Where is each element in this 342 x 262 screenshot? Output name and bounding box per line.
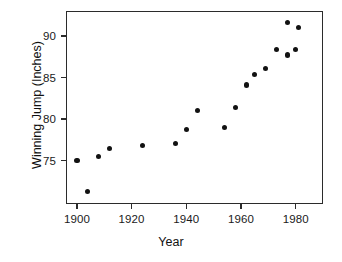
x-axis-ticklabel: 1920 bbox=[119, 213, 145, 225]
x-axis-tick bbox=[76, 204, 77, 209]
data-point bbox=[184, 127, 189, 132]
data-point bbox=[173, 141, 178, 146]
data-point bbox=[252, 72, 257, 77]
x-axis-ticklabel: 1940 bbox=[173, 213, 199, 225]
x-axis-tick bbox=[131, 204, 132, 209]
y-axis-tick bbox=[61, 77, 66, 78]
scatter-plot-figure: 1900192019401960198075808590 Year Winnin… bbox=[0, 0, 342, 262]
x-axis-ticklabel: 1980 bbox=[283, 213, 309, 225]
x-axis-tick bbox=[295, 204, 296, 209]
x-axis-title: Year bbox=[0, 235, 342, 249]
x-axis-tick bbox=[186, 204, 187, 209]
x-axis-ticklabel: 1960 bbox=[228, 213, 254, 225]
data-point bbox=[285, 52, 290, 57]
data-point bbox=[274, 47, 279, 52]
data-point bbox=[244, 82, 249, 87]
plot-frame bbox=[66, 11, 323, 204]
x-axis-tick bbox=[240, 204, 241, 209]
x-axis-ticklabel: 1900 bbox=[64, 213, 90, 225]
data-point bbox=[74, 158, 79, 163]
y-axis-tick bbox=[61, 118, 66, 119]
y-axis-tick bbox=[61, 35, 66, 36]
y-axis-tick bbox=[61, 160, 66, 161]
y-axis-title: Winning Jump (Inches) bbox=[30, 5, 44, 205]
